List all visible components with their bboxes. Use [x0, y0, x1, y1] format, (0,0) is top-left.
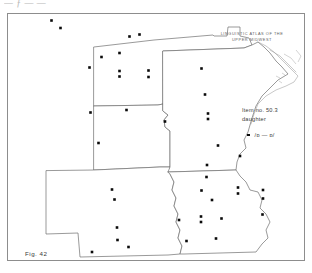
- data-dot: [89, 111, 92, 114]
- data-dot: [125, 109, 128, 112]
- keweenaw-outline: [296, 50, 301, 62]
- isle-royale-outline: [284, 54, 296, 64]
- legend-variant-label: /ɒ — ɒ/: [255, 132, 275, 138]
- data-dot: [200, 189, 203, 192]
- data-dot: [205, 176, 208, 179]
- data-dot: [97, 142, 100, 145]
- atlas-title-line-2: UPPER MIDWEST: [204, 36, 300, 43]
- data-dot: [185, 240, 188, 243]
- legend-item-number: Item no. 50.3: [242, 106, 312, 115]
- data-dot: [118, 75, 121, 78]
- data-dot: [147, 69, 150, 72]
- data-dot: [200, 221, 203, 224]
- data-dot: [200, 67, 203, 70]
- data-dot: [164, 120, 167, 123]
- data-dot: [261, 213, 264, 216]
- legend-item-keyword: daughter: [242, 115, 312, 124]
- data-dot: [204, 93, 207, 96]
- data-dot: [200, 215, 203, 218]
- data-dot: [59, 27, 62, 30]
- data-dot: [111, 188, 114, 191]
- data-dot: [237, 192, 240, 195]
- data-dot: [217, 144, 220, 147]
- data-dot: [220, 217, 223, 220]
- data-dot: [100, 56, 103, 59]
- data-dot: [138, 33, 141, 36]
- state-nebraska: [46, 167, 182, 257]
- data-dot: [116, 239, 119, 242]
- map-frame: LINGUISTIC ATLAS OF THE UPPER MIDWEST It…: [7, 13, 305, 261]
- data-dot: [207, 112, 210, 115]
- filled-square-icon: [247, 134, 250, 137]
- data-dot: [239, 155, 242, 158]
- data-dot: [262, 189, 265, 192]
- state-south-dakota: [94, 104, 170, 170]
- data-dot: [116, 226, 119, 229]
- data-dot: [118, 52, 121, 55]
- state-iowa: [168, 170, 270, 254]
- atlas-plate-page: — ƒ — — LINGUISTIC ATLAS OF THE UPPER M: [0, 0, 312, 273]
- data-dot: [207, 118, 210, 121]
- data-dot: [50, 19, 53, 22]
- data-dot: [127, 246, 130, 249]
- data-dot: [206, 164, 209, 167]
- cropped-header-text: — ƒ — —: [4, 0, 214, 9]
- figure-label: Fig. 42: [25, 250, 47, 257]
- data-dot: [211, 199, 214, 202]
- data-dot: [262, 197, 265, 200]
- data-dot: [113, 198, 116, 201]
- data-dot: [88, 66, 91, 69]
- legend-symbol-row: /ɒ — ɒ/: [242, 132, 312, 138]
- map-legend: Item no. 50.3 daughter /ɒ — ɒ/: [242, 106, 312, 138]
- data-dot: [215, 237, 218, 240]
- data-dot: [237, 186, 240, 189]
- data-dot: [147, 76, 150, 79]
- data-dot: [91, 251, 94, 254]
- data-dot: [128, 35, 131, 38]
- data-dot: [118, 70, 121, 73]
- data-dot: [178, 219, 181, 222]
